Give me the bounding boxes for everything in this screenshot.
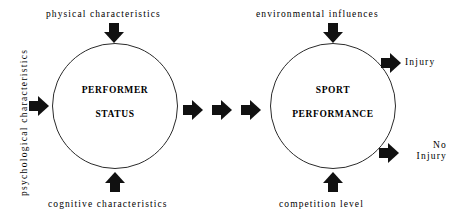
arrow-head xyxy=(38,96,49,116)
node-performer-status-line2: STATUS xyxy=(53,110,177,120)
label-physical-characteristics: physical characteristics xyxy=(46,9,161,21)
arrow-head xyxy=(388,143,399,163)
arrow-right-outcome-no-injury xyxy=(379,143,399,163)
node-performer-status: PERFORMER STATUS xyxy=(52,43,178,169)
arrow-head xyxy=(105,172,125,183)
arrow-head xyxy=(323,32,343,43)
node-sport-performance-line1: SPORT xyxy=(271,86,395,96)
arrow-right-connector-1 xyxy=(183,100,203,120)
arrow-down-sport-top xyxy=(323,23,343,43)
label-outcome-no-injury-line1: No xyxy=(405,140,447,151)
arrow-shaft xyxy=(379,148,388,158)
node-performer-status-line1: PERFORMER xyxy=(53,86,177,96)
arrow-shaft xyxy=(328,23,338,32)
arrow-up-sport-bottom xyxy=(323,172,343,192)
label-environmental-influences: environmental influences xyxy=(256,9,379,21)
node-sport-performance-line2: PERFORMANCE xyxy=(271,110,395,120)
arrow-shaft xyxy=(328,183,338,192)
arrow-shaft xyxy=(241,105,250,115)
arrow-right-connector-2 xyxy=(212,100,232,120)
label-psychological-characteristics: psychological characteristics xyxy=(19,49,29,196)
label-outcome-injury: Injury xyxy=(405,57,435,68)
arrow-shaft xyxy=(29,101,38,111)
arrow-right-performer-left xyxy=(29,96,49,116)
arrow-head xyxy=(390,53,401,73)
arrow-head xyxy=(192,100,203,120)
node-sport-performance: SPORT PERFORMANCE xyxy=(270,43,396,169)
arrow-shaft xyxy=(381,58,390,68)
label-cognitive-characteristics: cognitive characteristics xyxy=(48,199,168,211)
arrow-head xyxy=(221,100,232,120)
arrow-shaft xyxy=(109,23,119,32)
label-competition-level: competition level xyxy=(279,199,364,211)
arrow-down-performer-top xyxy=(104,23,124,43)
arrow-right-outcome-injury xyxy=(381,53,401,73)
diagram-canvas: physical characteristics psychological c… xyxy=(0,0,452,224)
label-outcome-no-injury: No Injury xyxy=(405,140,447,162)
arrow-up-performer-bottom xyxy=(105,172,125,192)
arrow-head xyxy=(104,32,124,43)
arrow-head xyxy=(323,172,343,183)
arrow-head xyxy=(250,100,261,120)
arrow-right-connector-3 xyxy=(241,100,261,120)
arrow-shaft xyxy=(110,183,120,192)
arrow-shaft xyxy=(212,105,221,115)
arrow-shaft xyxy=(183,105,192,115)
label-outcome-no-injury-line2: Injury xyxy=(405,151,447,162)
